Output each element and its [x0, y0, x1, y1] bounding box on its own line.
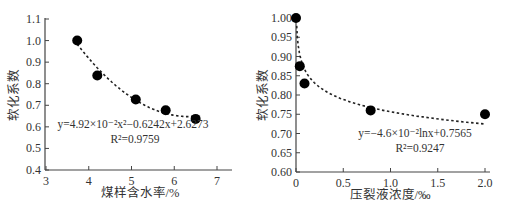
- y-tick-label: 0.85: [271, 69, 292, 83]
- fit-equation: y=4.92×10⁻²x²−0.6242x+2.6273: [57, 118, 208, 131]
- y-axis-label: 软化系数: [255, 69, 270, 121]
- y-tick-label: 0.75: [271, 107, 292, 121]
- data-point: [161, 105, 171, 115]
- x-axis-label: 煤样含水率/%: [101, 185, 180, 200]
- chart-right: 0.600.650.700.750.800.850.900.951.0000.5…: [255, 11, 493, 202]
- data-point: [300, 78, 310, 88]
- y-tick-label: 0.8: [26, 77, 41, 91]
- y-tick-label: 0.4: [26, 163, 41, 177]
- chart-left: 0.40.50.60.70.80.91.01.134567y=4.92×10⁻²…: [6, 12, 232, 200]
- fit-equation: y=−4.6×10⁻²lnx+0.7565: [358, 127, 472, 140]
- y-tick-label: 0.7: [26, 98, 41, 112]
- data-point: [295, 61, 305, 71]
- x-tick-label: 0.5: [336, 176, 351, 190]
- y-tick-label: 1.0: [26, 34, 41, 48]
- x-tick-label: 0: [293, 176, 299, 190]
- data-point: [92, 71, 102, 81]
- x-axis-label: 压裂液浓度/‰: [350, 187, 431, 202]
- y-tick-label: 0.6: [26, 120, 41, 134]
- r-squared: R²=0.9247: [395, 142, 444, 154]
- y-tick-label: 0.9: [26, 55, 41, 69]
- y-tick-label: 0.5: [26, 141, 41, 155]
- y-tick-label: 0.80: [271, 88, 292, 102]
- x-tick-label: 1.5: [430, 176, 445, 190]
- data-point: [72, 36, 82, 46]
- x-tick-label: 4: [86, 174, 92, 188]
- x-tick-label: 2.0: [478, 176, 493, 190]
- y-tick-label: 1.1: [26, 12, 41, 26]
- data-point: [291, 13, 301, 23]
- y-tick-label: 0.60: [271, 165, 292, 179]
- y-tick-label: 1.00: [271, 11, 292, 25]
- data-point: [366, 105, 376, 115]
- y-tick-label: 0.90: [271, 50, 292, 64]
- x-tick-label: 3: [43, 174, 49, 188]
- y-tick-label: 0.70: [271, 127, 292, 141]
- fit-curve: [77, 44, 195, 117]
- chart-figure: 0.40.50.60.70.80.91.01.134567y=4.92×10⁻²…: [0, 0, 505, 215]
- r-squared: R²=0.9759: [110, 133, 159, 145]
- y-tick-label: 0.95: [271, 30, 292, 44]
- data-point: [131, 94, 141, 104]
- y-axis-label: 软化系数: [6, 69, 21, 121]
- y-tick-label: 0.65: [271, 146, 292, 160]
- x-tick-label: 7: [214, 174, 220, 188]
- fit-curve: [297, 26, 485, 124]
- data-point: [480, 109, 490, 119]
